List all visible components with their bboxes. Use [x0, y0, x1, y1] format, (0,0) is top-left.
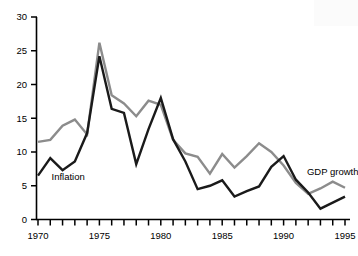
x-tick-label: 1995: [334, 230, 355, 241]
x-axis-ticks: [38, 220, 345, 226]
x-tick-label: 1990: [273, 230, 294, 241]
chart-container: 051015202530 197019751980198519901995 In…: [0, 0, 358, 256]
y-tick-label: 20: [16, 79, 27, 90]
y-axis-ticks: 051015202530: [16, 11, 37, 225]
x-tick-label: 1980: [150, 230, 171, 241]
annotation-inflation: Inflation: [52, 171, 85, 182]
y-tick-label: 10: [16, 146, 27, 157]
y-tick-label: 30: [16, 11, 27, 22]
x-tick-label: 1975: [89, 230, 110, 241]
annotation-gdp-growth: GDP growth: [307, 166, 358, 177]
x-tick-label: 1970: [27, 230, 48, 241]
y-tick-label: 25: [16, 45, 27, 56]
y-tick-label: 5: [22, 180, 27, 191]
x-tick-label: 1985: [212, 230, 233, 241]
y-tick-label: 0: [22, 214, 27, 225]
x-axis-labels: 197019751980198519901995: [27, 230, 355, 241]
plot-area: [36, 17, 345, 219]
scan-artifact: [314, 0, 358, 26]
line-chart: 051015202530 197019751980198519901995 In…: [0, 0, 358, 256]
y-tick-label: 15: [16, 113, 27, 124]
